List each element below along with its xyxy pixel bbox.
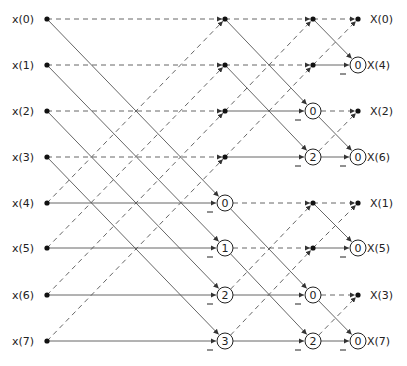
twiddle-factor-label: 0: [355, 242, 362, 255]
add-path: [231, 205, 311, 289]
add-path: [47, 67, 223, 248]
junction-dot: [310, 16, 315, 21]
input-label: x(2): [12, 105, 34, 118]
junction-dot: [44, 338, 49, 343]
input-label: x(5): [12, 242, 34, 255]
add-path: [225, 21, 311, 111]
twiddle-factor-label: 0: [355, 335, 362, 348]
junction-dot: [355, 292, 360, 297]
fft-butterfly-diagram: 012302020000 x(0)X(0)x(1)X(4)x(2)X(2)x(3…: [0, 0, 407, 366]
junction-dot: [310, 245, 315, 250]
twiddle-factor-label: 0: [355, 59, 362, 72]
add-path: [319, 113, 356, 151]
subtract-path: [225, 19, 307, 104]
junction-dot: [355, 200, 360, 205]
add-path: [313, 205, 356, 248]
output-label: X(7): [367, 335, 390, 348]
subtract-path: [313, 203, 352, 242]
output-label: X(1): [370, 197, 393, 210]
output-label: X(4): [367, 59, 390, 72]
twiddle-factor-label: 0: [310, 105, 317, 118]
twiddle-factor-label: 2: [310, 151, 317, 164]
junction-dot: [355, 108, 360, 113]
twiddle-factor-label: 1: [222, 242, 229, 255]
output-label: X(0): [370, 13, 393, 26]
output-label: X(5): [367, 242, 390, 255]
subtract-path: [319, 117, 352, 151]
junction-dot: [44, 108, 49, 113]
subtract-path: [319, 301, 352, 335]
subtract-path: [225, 65, 307, 150]
subtract-path: [47, 111, 219, 289]
subtract-path: [230, 254, 306, 335]
subtract-path: [231, 209, 307, 289]
subtract-path: [313, 19, 352, 59]
junction-dot: [44, 62, 49, 67]
add-path: [47, 21, 223, 203]
output-label: X(6): [367, 151, 390, 164]
subtract-path: [47, 65, 219, 242]
junction-dot: [222, 154, 227, 159]
junction-dot: [44, 16, 49, 21]
junction-dot: [44, 154, 49, 159]
input-label: x(0): [12, 13, 34, 26]
input-label: x(1): [12, 59, 34, 72]
twiddle-factor-label: 0: [222, 197, 229, 210]
twiddle-factor-label: 2: [310, 335, 317, 348]
output-label: X(3): [370, 289, 393, 302]
twiddle-factor-label: 0: [310, 289, 317, 302]
junction-dot: [44, 245, 49, 250]
junction-dot: [355, 16, 360, 21]
input-label: x(7): [12, 335, 34, 348]
add-path: [319, 297, 356, 335]
add-path: [230, 250, 310, 335]
subtract-path: [47, 19, 219, 197]
input-label: x(6): [12, 289, 34, 302]
junction-dot: [222, 62, 227, 67]
input-label: x(3): [12, 151, 34, 164]
twiddle-factor-label: 0: [355, 151, 362, 164]
add-path: [313, 21, 356, 65]
input-label: x(4): [12, 197, 34, 210]
junction-dot: [44, 200, 49, 205]
add-path: [47, 113, 223, 295]
twiddle-factor-label: 3: [222, 335, 229, 348]
junction-dot: [222, 16, 227, 21]
junction-dot: [310, 200, 315, 205]
junction-dot: [310, 62, 315, 67]
junction-dot: [44, 292, 49, 297]
subtract-path: [47, 157, 219, 335]
add-path: [47, 159, 223, 341]
junction-dot: [222, 108, 227, 113]
twiddle-factor-label: 2: [222, 289, 229, 302]
add-path: [225, 67, 311, 157]
output-label: X(2): [370, 105, 393, 118]
